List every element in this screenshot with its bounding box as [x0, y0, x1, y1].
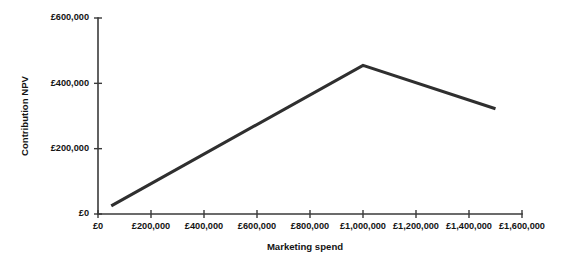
chart-axes [98, 18, 522, 214]
x-axis-tick-labels: £0£200,000£400,000£600,000£800,000£1,000… [93, 221, 545, 231]
x-axis-title: Marketing spend [267, 241, 343, 252]
line-chart: £0£200,000£400,000£600,000£800,000£1,000… [0, 0, 577, 267]
y-tick-label-0: £0 [79, 208, 89, 218]
chart-container: £0£200,000£400,000£600,000£800,000£1,000… [0, 0, 577, 267]
x-tick-label-8: £1,600,000 [499, 221, 545, 231]
y-tick-label-1: £200,000 [51, 143, 89, 153]
x-tick-label-6: £1,200,000 [393, 221, 439, 231]
x-tick-label-3: £600,000 [238, 221, 276, 231]
y-axis-tick-labels: £0£200,000£400,000£600,000 [51, 12, 89, 218]
y-tick-label-2: £400,000 [51, 78, 89, 88]
series-line-0 [111, 65, 495, 205]
y-axis-title: Contribution NPV [19, 75, 30, 156]
x-tick-label-5: £1,000,000 [340, 221, 386, 231]
x-tick-label-0: £0 [93, 221, 103, 231]
x-tick-label-4: £800,000 [291, 221, 329, 231]
data-series-group [111, 65, 495, 205]
axis-tick-marks [94, 18, 522, 218]
x-tick-label-2: £400,000 [185, 221, 223, 231]
x-tick-label-7: £1,400,000 [446, 221, 492, 231]
y-tick-label-3: £600,000 [51, 12, 89, 22]
x-tick-label-1: £200,000 [132, 221, 170, 231]
